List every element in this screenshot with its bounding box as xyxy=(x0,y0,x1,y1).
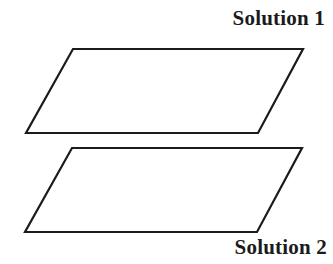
label-solution-2: Solution 2 xyxy=(235,236,327,258)
label-solution-1: Solution 1 xyxy=(233,7,325,29)
figure-container: Solution 1 Solution 2 xyxy=(0,0,333,264)
parallelogram-diagram xyxy=(0,0,333,264)
